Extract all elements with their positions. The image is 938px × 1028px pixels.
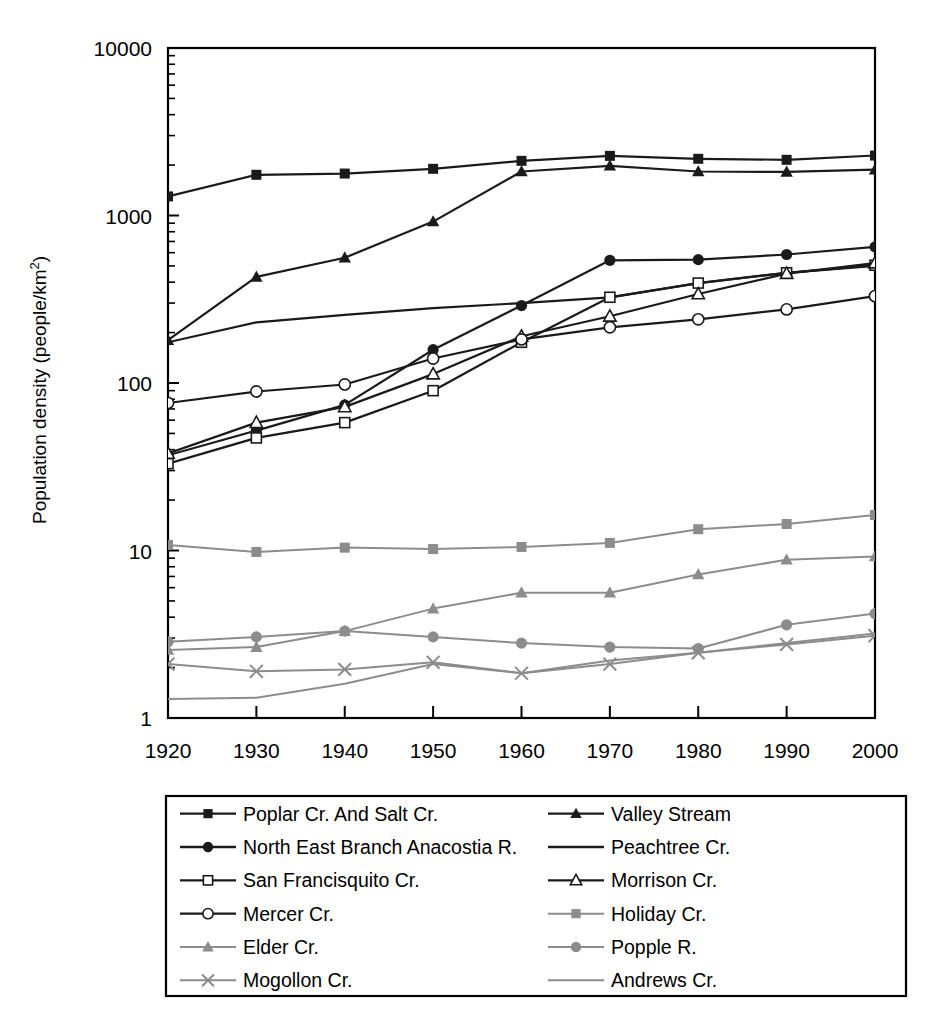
x-tick-label: 1970 [587,739,634,762]
series-marker [869,608,880,619]
marker-filled-circle [571,942,581,952]
marker-open-circle [339,379,350,390]
series-marker [428,544,438,554]
y-axis-title-tail: ) [29,256,50,262]
marker-open-circle [162,397,173,408]
marker-filled-circle [869,608,880,619]
x-tick-label: 1960 [498,739,545,762]
series-marker [162,397,173,408]
marker-filled-circle [604,642,615,653]
marker-filled-circle [162,636,173,647]
series-marker [604,255,615,266]
series-marker [870,510,880,520]
series-marker [203,909,213,919]
marker-filled-circle [693,254,704,265]
figure-root: 1000010001001011920193019401950196019701… [0,0,938,1028]
series-marker [781,249,792,260]
marker-filled-square [517,156,527,166]
legend-label: Valley Stream [611,803,731,825]
legend-label: Elder Cr. [243,936,319,958]
marker-filled-square [605,538,615,548]
series-marker [163,459,173,469]
series-marker [693,254,704,265]
y-tick-label: 10 [129,540,152,563]
series-marker [782,155,792,165]
series-marker [605,292,615,302]
marker-open-circle [781,304,792,315]
marker-open-circle [428,353,439,364]
marker-filled-square [251,547,261,557]
marker-filled-circle [428,631,439,642]
x-tick-label: 1980 [675,739,722,762]
legend-label: Mogollon Cr. [243,969,352,991]
series-marker [693,154,703,164]
series-marker [251,386,262,397]
series-marker [428,353,439,364]
marker-open-square [251,433,261,443]
series-marker [605,538,615,548]
marker-filled-square [340,169,350,179]
marker-filled-circle [516,638,527,649]
legend-label: Popple R. [611,936,697,958]
marker-filled-square [870,510,880,520]
series-marker [340,169,350,179]
legend-label: San Francisquito Cr. [243,869,420,891]
marker-filled-circle [869,241,880,252]
series-marker [251,631,262,642]
marker-open-circle [203,909,213,919]
series-marker [163,191,173,201]
series-marker [870,151,880,161]
series-marker [203,842,213,852]
x-tick-label: 2000 [852,739,899,762]
x-tick-label: 1920 [145,739,192,762]
marker-filled-square [517,542,527,552]
series-marker [163,540,173,550]
y-tick-label: 1 [140,707,152,730]
y-tick-label: 1000 [105,205,152,228]
marker-open-square [340,418,350,428]
marker-open-circle [516,334,527,345]
series-marker [781,619,792,630]
legend-box [166,796,906,996]
marker-filled-square [428,164,438,174]
marker-filled-square [870,151,880,161]
series-marker [428,386,438,396]
marker-filled-circle [251,631,262,642]
marker-filled-square [782,155,792,165]
y-axis-title: Population density (people/km2) [27,256,50,524]
series-marker [340,418,350,428]
marker-filled-square [251,170,261,180]
series-marker [781,304,792,315]
series-marker [340,543,350,553]
y-axis-title-main: Population density (people/km [29,270,50,525]
series-marker [869,291,880,302]
marker-open-circle [604,322,615,333]
chart-svg: 1000010001001011920193019401950196019701… [0,0,938,1028]
series-marker [604,322,615,333]
marker-open-square [163,459,173,469]
series-marker [604,642,615,653]
marker-open-square [605,292,615,302]
marker-filled-circle [781,619,792,630]
marker-filled-circle [781,249,792,260]
legend-label: Morrison Cr. [611,869,717,891]
marker-open-circle [693,314,704,325]
series-marker [203,809,212,818]
series-marker [693,314,704,325]
y-axis-title-text: Population density (people/km2) [27,256,50,524]
series-marker [516,300,527,311]
x-tick-label: 1930 [233,739,280,762]
series-marker [693,524,703,534]
series-marker [428,164,438,174]
marker-filled-circle [516,300,527,311]
series-marker [251,433,261,443]
series-marker [428,631,439,642]
legend-label: Mercer Cr. [243,903,334,925]
marker-filled-circle [203,842,213,852]
series-marker [203,876,212,885]
series-marker [251,547,261,557]
marker-filled-circle [339,626,350,637]
marker-filled-square [340,543,350,553]
y-tick-label: 100 [117,372,152,395]
marker-open-square [203,876,212,885]
